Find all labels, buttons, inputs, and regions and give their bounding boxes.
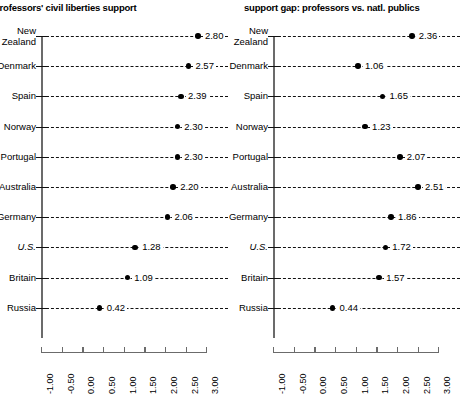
data-point bbox=[415, 184, 421, 190]
data-point-value: 2.36 bbox=[417, 30, 440, 41]
data-point bbox=[383, 245, 389, 251]
leader-line bbox=[273, 217, 460, 218]
category-label-australia: Australia bbox=[198, 182, 268, 193]
category-label-russia: Russia bbox=[198, 303, 268, 314]
data-point bbox=[178, 94, 184, 100]
x-axis-tick-label: 2.50 bbox=[190, 376, 200, 394]
data-point-value: 2.51 bbox=[423, 181, 446, 192]
x-axis-tick bbox=[273, 347, 274, 352]
data-point bbox=[409, 33, 415, 39]
data-row: Britain1.57 bbox=[232, 263, 464, 293]
data-point-value: 1.09 bbox=[132, 272, 155, 283]
x-axis-tick-label: -0.50 bbox=[66, 373, 76, 394]
category-label-new-zealand: NewZealand bbox=[0, 25, 36, 47]
data-point bbox=[186, 63, 192, 69]
x-axis-tick bbox=[397, 347, 398, 352]
data-point bbox=[175, 154, 181, 160]
data-row: Germany1.86 bbox=[232, 202, 464, 232]
data-row: NewZealand2.36 bbox=[232, 21, 464, 51]
data-point bbox=[170, 184, 176, 190]
data-point bbox=[388, 214, 394, 220]
data-row: Russia0.44 bbox=[232, 293, 464, 323]
data-point bbox=[376, 275, 382, 281]
data-point-value: 0.42 bbox=[105, 302, 128, 313]
x-axis-tick-label: 0.00 bbox=[86, 376, 96, 394]
data-point-value: 2.07 bbox=[405, 151, 428, 162]
x-axis-tick-label: 2.00 bbox=[401, 376, 411, 394]
x-axis-tick bbox=[335, 347, 336, 352]
data-row: Denmark1.06 bbox=[232, 51, 464, 81]
leader-line bbox=[273, 96, 460, 97]
data-row: U.S.1.72 bbox=[232, 232, 464, 262]
x-axis-tick-label: 2.00 bbox=[169, 376, 179, 394]
x-axis-tick bbox=[294, 347, 295, 352]
x-axis-tick-label: 0.00 bbox=[318, 376, 328, 394]
data-point-value: 1.72 bbox=[390, 241, 413, 252]
x-axis-tick bbox=[206, 347, 207, 352]
data-point-value: 1.06 bbox=[363, 60, 386, 71]
category-label-germany: Germany bbox=[198, 212, 268, 223]
data-point bbox=[175, 124, 181, 130]
panel-support-gap: support gap: professors vs. natl. public… bbox=[232, 0, 464, 404]
x-axis-tick-label: 1.00 bbox=[360, 376, 370, 394]
figure-root: professors' civil liberties support NewZ… bbox=[0, 0, 465, 404]
x-axis-tick bbox=[41, 347, 42, 352]
data-point-value: 2.06 bbox=[172, 211, 195, 222]
x-axis-tick-label: 1.00 bbox=[128, 376, 138, 394]
category-label-australia: Australia bbox=[0, 182, 36, 193]
leader-line bbox=[273, 278, 460, 279]
x-axis-tick bbox=[124, 347, 125, 352]
category-label-denmark: Denmark bbox=[198, 61, 268, 72]
data-point bbox=[97, 305, 103, 311]
x-axis-tick-label: 1.50 bbox=[380, 376, 390, 394]
x-axis-tick-label: -1.00 bbox=[45, 373, 55, 394]
x-axis-tick-label: 0.50 bbox=[107, 376, 117, 394]
category-label-u-s: U.S. bbox=[0, 242, 36, 253]
x-axis-tick bbox=[314, 347, 315, 352]
data-row: Norway1.23 bbox=[232, 112, 464, 142]
data-point bbox=[397, 154, 403, 160]
x-axis-tick bbox=[418, 347, 419, 352]
panel-title-right: support gap: professors vs. natl. public… bbox=[244, 2, 420, 13]
category-label-new-zealand: NewZealand bbox=[198, 25, 268, 47]
data-point bbox=[355, 63, 361, 69]
category-label-portugal: Portugal bbox=[0, 152, 36, 163]
x-axis-tick bbox=[144, 347, 145, 352]
leader-line bbox=[273, 157, 460, 158]
data-row: Australia2.51 bbox=[232, 172, 464, 202]
x-axis-tick-label: 3.00 bbox=[442, 376, 452, 394]
data-point-value: 1.23 bbox=[370, 121, 393, 132]
category-label-britain: Britain bbox=[198, 273, 268, 284]
x-axis-tick bbox=[62, 347, 63, 352]
data-row: Portugal2.07 bbox=[232, 142, 464, 172]
leader-line bbox=[273, 247, 460, 248]
data-point bbox=[380, 94, 386, 100]
x-axis-tick bbox=[186, 347, 187, 352]
data-point-value: 1.86 bbox=[396, 211, 419, 222]
x-axis-tick bbox=[82, 347, 83, 352]
x-axis-tick-label: -0.50 bbox=[298, 373, 308, 394]
x-axis-tick bbox=[103, 347, 104, 352]
x-axis-line bbox=[41, 352, 207, 353]
data-row: Spain1.65 bbox=[232, 81, 464, 111]
category-label-denmark: Denmark bbox=[0, 61, 36, 72]
leader-line bbox=[273, 308, 460, 309]
x-axis-tick bbox=[165, 347, 166, 352]
x-axis-tick bbox=[376, 347, 377, 352]
data-point-value: 1.57 bbox=[384, 272, 407, 283]
data-point bbox=[165, 214, 171, 220]
category-label-spain: Spain bbox=[0, 91, 36, 102]
data-point bbox=[330, 305, 336, 311]
x-axis-line bbox=[273, 352, 439, 353]
plot-area-right: NewZealand2.36Denmark1.06Spain1.65Norway… bbox=[232, 22, 464, 352]
panel-title-left: professors' civil liberties support bbox=[0, 2, 137, 13]
category-label-norway: Norway bbox=[198, 122, 268, 133]
data-point bbox=[125, 275, 131, 281]
data-point-value: 0.44 bbox=[337, 302, 360, 313]
category-label-spain: Spain bbox=[198, 91, 268, 102]
x-axis-tick bbox=[356, 347, 357, 352]
x-axis-tick bbox=[438, 347, 439, 352]
category-label-norway: Norway bbox=[0, 122, 36, 133]
x-axis-tick-label: 0.50 bbox=[339, 376, 349, 394]
category-label-britain: Britain bbox=[0, 273, 36, 284]
